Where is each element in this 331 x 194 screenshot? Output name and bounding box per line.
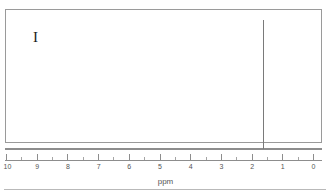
x-axis-title: ppm [0, 178, 331, 186]
x-axis: 10 9 8 7 6 5 4 3 2 1 0 ppm [0, 143, 331, 194]
tick-label-10: 10 [4, 163, 12, 170]
tick-label-4: 4 [189, 163, 193, 170]
tick-label-0: 0 [312, 163, 316, 170]
tick-label-5: 5 [158, 163, 162, 170]
tick-label-7: 7 [97, 163, 101, 170]
tick-label-2: 2 [250, 163, 254, 170]
series-label: I [33, 30, 38, 45]
tick-label-group: 10 9 8 7 6 5 4 3 2 1 0 [0, 163, 331, 177]
tick-label-1: 1 [281, 163, 285, 170]
tick-label-6: 6 [127, 163, 131, 170]
tick-label-8: 8 [66, 163, 70, 170]
nmr-spectrum-figure: I [0, 0, 331, 194]
tick-label-9: 9 [35, 163, 39, 170]
footer-rule [4, 189, 326, 190]
spectrum-trace [5, 9, 322, 150]
tick-label-3: 3 [219, 163, 223, 170]
